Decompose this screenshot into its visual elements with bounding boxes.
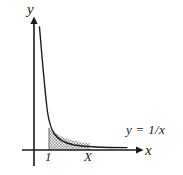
figure-hyperbola-area: y x 1 X y = 1/x (0, 0, 183, 175)
x-tick-label-X: X (84, 150, 92, 163)
y-axis-arrowhead (30, 17, 37, 25)
y-axis-label: y (27, 2, 34, 17)
shaded-area-under-curve (48, 126, 92, 151)
y-axis (30, 17, 37, 167)
x-tick-label-1: 1 (45, 150, 52, 163)
curve-equation-label: y = 1/x (126, 123, 165, 136)
x-axis-label: x (145, 143, 152, 158)
x-axis-arrowhead (136, 146, 144, 153)
curve-y-equals-1-over-x (40, 27, 128, 148)
